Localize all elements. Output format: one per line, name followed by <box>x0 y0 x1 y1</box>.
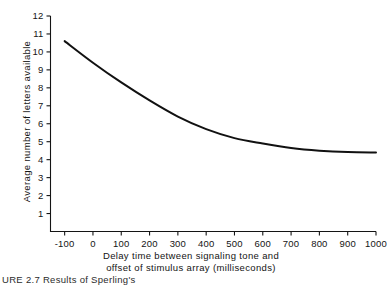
x-axis-label: Delay time between signaling tone and of… <box>0 250 382 273</box>
y-tick-label: 10 <box>28 46 44 57</box>
x-axis-label-line-1: Delay time between signaling tone and <box>0 250 382 262</box>
y-tick-label: 3 <box>28 172 44 183</box>
x-tick-label: 1000 <box>356 238 391 249</box>
y-tick-label: 11 <box>28 28 44 39</box>
y-tick-label: 8 <box>28 82 44 93</box>
y-tick-label: 2 <box>28 190 44 201</box>
y-tick-label: 12 <box>28 10 44 21</box>
y-tick-label: 6 <box>28 118 44 129</box>
y-tick-label: 7 <box>28 100 44 111</box>
y-tick-label: 1 <box>28 208 44 219</box>
data-series-line <box>65 41 376 152</box>
y-tick-label: 4 <box>28 154 44 165</box>
x-axis-label-line-2: offset of stimulus array (milliseconds) <box>0 262 382 274</box>
x-axis-ticks <box>65 232 376 236</box>
y-axis-ticks <box>47 16 51 214</box>
y-tick-label: 9 <box>28 64 44 75</box>
figure-caption: URE 2.7 Results of Sperling's <box>2 274 380 285</box>
y-tick-label: 5 <box>28 136 44 147</box>
